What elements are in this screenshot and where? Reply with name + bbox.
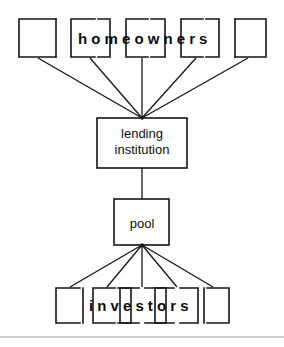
flow-edge-i1 bbox=[70, 245, 142, 287]
investors-label: investors bbox=[89, 297, 193, 314]
pool-to-investors-flow bbox=[70, 243, 213, 287]
pool-label: pool bbox=[130, 216, 155, 231]
flow-edge-h4 bbox=[142, 58, 196, 118]
diagram-canvas: homeowners lending institution pool bbox=[0, 0, 284, 347]
flow-edge-i4 bbox=[142, 245, 177, 287]
investor-box-1[interactable] bbox=[56, 288, 83, 323]
flow-edge-i2 bbox=[107, 245, 142, 287]
investor-box-5[interactable] bbox=[204, 288, 229, 323]
homeowners-label: homeowners bbox=[78, 30, 212, 47]
homeowner-box-5[interactable] bbox=[235, 19, 266, 57]
flow-edge-h2 bbox=[90, 58, 142, 118]
lending-institution-node[interactable]: lending institution bbox=[97, 118, 187, 168]
flow-edge-h1 bbox=[38, 58, 142, 118]
lending-institution-label-line1: lending bbox=[121, 126, 163, 141]
homeowners-to-lending-flow bbox=[38, 58, 248, 120]
flow-edge-h5 bbox=[142, 58, 248, 118]
securitization-flow-diagram: homeowners lending institution pool bbox=[0, 0, 284, 347]
pool-node[interactable]: pool bbox=[114, 199, 169, 245]
homeowner-box-1[interactable] bbox=[19, 19, 56, 57]
lending-institution-label-line2: institution bbox=[115, 142, 170, 157]
investors-group: investors bbox=[56, 288, 229, 323]
flow-edge-i5 bbox=[142, 245, 213, 287]
homeowners-group: homeowners bbox=[19, 19, 266, 57]
